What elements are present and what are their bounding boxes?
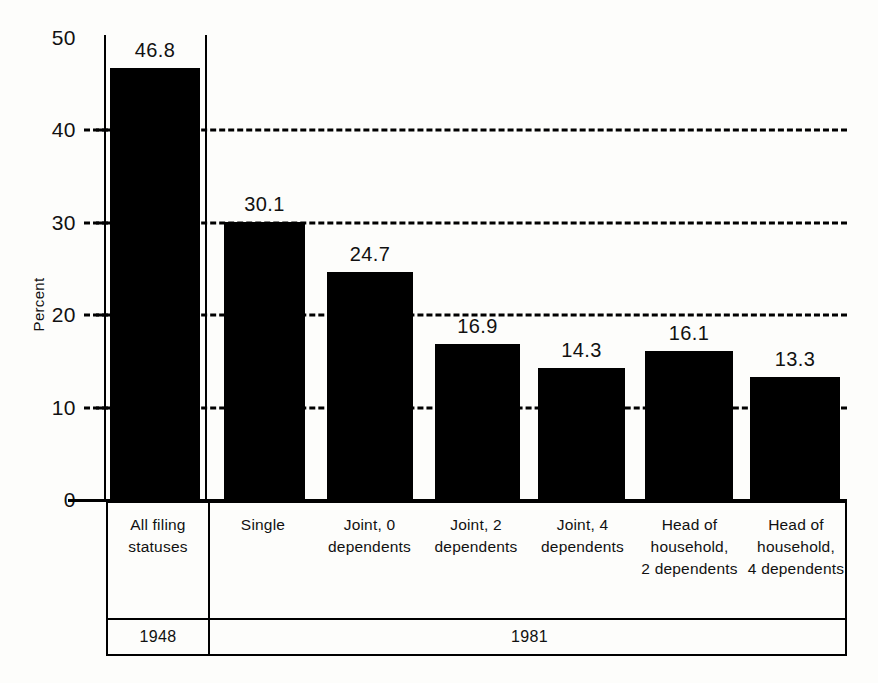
category-label-cell: Joint, 4dependents — [529, 503, 636, 618]
year-label: 1981 — [511, 628, 548, 646]
bar-value-label: 30.1 — [224, 193, 305, 216]
category-label-line: All filing — [108, 514, 208, 536]
category-label-line: statuses — [108, 536, 208, 558]
category-label-row: All filingstatusesSingleJoint, 0dependen… — [108, 503, 845, 620]
bar-value-label: 16.1 — [645, 322, 733, 345]
year-label: 1948 — [139, 628, 176, 646]
bar — [224, 222, 305, 500]
year-label-cell: 1948 — [108, 620, 210, 654]
category-label-line: Joint, 0 — [316, 514, 423, 536]
category-label-line: household, — [636, 536, 743, 558]
category-label-cell: Joint, 2dependents — [423, 503, 529, 618]
category-label-cell: Single — [210, 503, 316, 618]
bar — [110, 68, 200, 500]
category-label-line: dependents — [423, 536, 529, 558]
category-label-line: Head of — [636, 514, 743, 536]
year-label-row: 19481981 — [108, 620, 845, 654]
category-label-line: 2 dependents — [636, 558, 743, 580]
year-label-cell: 1981 — [210, 620, 849, 654]
bar-value-label: 14.3 — [538, 339, 625, 362]
category-label-cell: Joint, 0dependents — [316, 503, 423, 618]
category-label-cell: Head ofhousehold,4 dependents — [743, 503, 849, 618]
plot-area: 46.830.124.716.914.316.113.3 — [0, 0, 878, 502]
category-label-cell: Head ofhousehold,2 dependents — [636, 503, 743, 618]
category-label-line: Joint, 4 — [529, 514, 636, 536]
category-label-line: 4 dependents — [743, 558, 849, 580]
bar-value-label: 16.9 — [435, 315, 520, 338]
category-label-line: household, — [743, 536, 849, 558]
bar — [750, 377, 840, 500]
category-label-line: Head of — [743, 514, 849, 536]
category-label-line: dependents — [529, 536, 636, 558]
category-label-cell: All filingstatuses — [108, 503, 210, 618]
bar-value-label: 24.7 — [327, 243, 413, 266]
category-label-line: Joint, 2 — [423, 514, 529, 536]
bar — [645, 351, 733, 500]
bar — [538, 368, 625, 500]
category-label-line: dependents — [316, 536, 423, 558]
bar-value-label: 13.3 — [750, 348, 840, 371]
bar-value-label: 46.8 — [110, 39, 200, 62]
bar — [327, 272, 413, 500]
category-label-line: Single — [210, 514, 316, 536]
chart-figure: 50403020100 Percent 46.830.124.716.914.3… — [0, 0, 878, 683]
bar — [435, 344, 520, 500]
category-label-table: All filingstatusesSingleJoint, 0dependen… — [106, 501, 847, 656]
